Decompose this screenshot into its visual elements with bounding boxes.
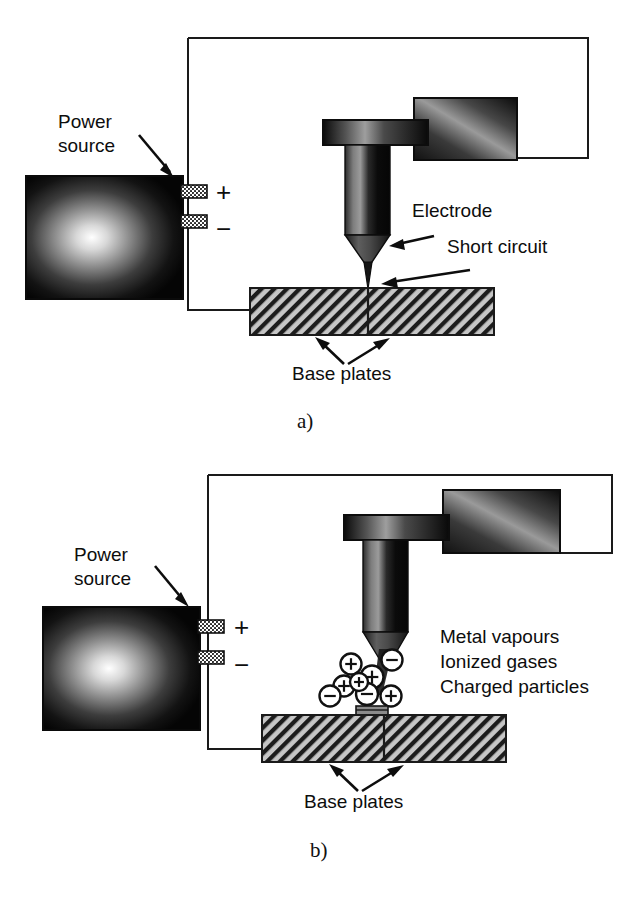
base-plates-label-a: Base plates <box>292 363 391 384</box>
terminal-block-b <box>198 620 224 664</box>
terminal-block-a <box>181 185 207 228</box>
base-plates-arrows-b <box>329 764 404 791</box>
power-source-label-line1-a: Power <box>58 111 113 132</box>
power-source-label-line2-a: source <box>58 135 115 156</box>
power-source-arrow-b <box>155 566 189 607</box>
electrode-label-a: Electrode <box>412 200 492 221</box>
panel-a-short-circuit: + − Power source Electrode <box>0 0 631 453</box>
panel-b-arc-initiation: + − Power source <box>0 453 631 906</box>
plasma-label-line3-b: Charged particles <box>440 676 589 697</box>
terminal-plus-sign-b: + <box>234 612 249 642</box>
base-plates-a <box>250 288 494 335</box>
terminal-minus-sign-b: − <box>234 650 249 680</box>
short-circuit-contact-a <box>364 262 372 289</box>
base-plate-left-a <box>250 288 494 335</box>
panel-b-canvas: + − Power source <box>0 453 631 906</box>
panel-caption-b: b) <box>310 838 328 862</box>
power-source-label-line2-b: source <box>74 568 131 589</box>
charged-particle <box>350 673 368 691</box>
charged-particle <box>382 650 403 671</box>
charged-particle <box>381 686 402 707</box>
power-source-arrow-a <box>139 135 174 178</box>
terminal-plus-sign-a: + <box>216 177 231 207</box>
base-plates-b <box>262 715 506 762</box>
short-circuit-label-a: Short circuit <box>447 236 548 257</box>
terminal-minus-sign-a: − <box>216 214 231 244</box>
electrode-a <box>345 145 390 289</box>
electrode-arrow-a <box>389 236 434 250</box>
power-source-label-line1-b: Power <box>74 544 129 565</box>
plasma-label-line1-b: Metal vapours <box>440 626 559 647</box>
charged-particle <box>320 686 341 707</box>
charged-particle <box>341 654 362 675</box>
electrode-holder-a <box>323 120 428 145</box>
plasma-label-line2-b: Ionized gases <box>440 651 557 672</box>
charged-particles-cluster-b <box>320 650 403 707</box>
power-source-box-a <box>26 176 183 299</box>
short-circuit-arrow-a <box>381 270 470 288</box>
electrode-holder-b <box>344 515 449 540</box>
power-source-box-b <box>43 607 200 730</box>
base-plates-label-b: Base plates <box>304 791 403 812</box>
base-plates-arrows-a <box>315 337 390 364</box>
panel-a-canvas: + − Power source Electrode <box>0 0 631 453</box>
panel-caption-a: a) <box>297 409 313 433</box>
cable-connector-box-a <box>414 98 517 160</box>
cable-connector-box-b <box>443 490 560 553</box>
